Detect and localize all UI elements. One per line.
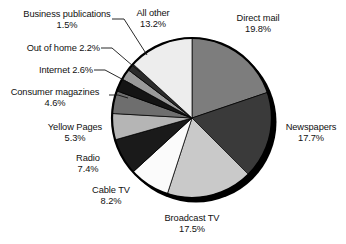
label-cable-tv: Cable TV 8.2% xyxy=(78,185,144,207)
label-yellow-pages: Yellow Pages 5.3% xyxy=(33,122,117,144)
label-internet: Internet 2.6% xyxy=(0,65,93,76)
label-direct-mail-name: Direct mail xyxy=(237,13,280,23)
label-consumer-magazines-value: 4.6% xyxy=(1,98,109,109)
label-broadcast-tv-name: Broadcast TV xyxy=(165,213,220,223)
label-newspapers: Newspapers 17.7% xyxy=(276,122,346,144)
label-cable-tv-name: Cable TV xyxy=(92,185,130,195)
label-internet-name: Internet 2.6% xyxy=(39,65,93,75)
label-yellow-pages-name: Yellow Pages xyxy=(48,122,102,132)
label-consumer-magazines: Consumer magazines 4.6% xyxy=(1,87,109,109)
label-business-publications-value: 1.5% xyxy=(4,20,130,31)
label-all-other-name: All other xyxy=(136,8,169,18)
label-broadcast-tv-value: 17.5% xyxy=(151,224,233,235)
label-radio-value: 7.4% xyxy=(56,164,120,175)
label-business-publications: Business publications 1.5% xyxy=(4,9,130,31)
label-all-other-value: 13.2% xyxy=(122,19,184,30)
label-radio-name: Radio xyxy=(76,153,100,163)
label-direct-mail: Direct mail 19.8% xyxy=(220,13,296,35)
label-out-of-home-name: Out of home 2.2% xyxy=(27,43,100,53)
label-broadcast-tv: Broadcast TV 17.5% xyxy=(151,213,233,235)
label-yellow-pages-value: 5.3% xyxy=(33,133,117,144)
label-cable-tv-value: 8.2% xyxy=(78,196,144,207)
label-newspapers-value: 17.7% xyxy=(276,133,346,144)
label-out-of-home: Out of home 2.2% xyxy=(0,43,100,54)
label-newspapers-name: Newspapers xyxy=(286,122,337,132)
label-business-publications-name: Business publications xyxy=(23,9,110,19)
label-all-other: All other 13.2% xyxy=(122,8,184,30)
pie-chart-figure: Business publications 1.5% Out of home 2… xyxy=(0,0,346,244)
label-direct-mail-value: 19.8% xyxy=(220,24,296,35)
label-consumer-magazines-name: Consumer magazines xyxy=(11,87,100,97)
label-radio: Radio 7.4% xyxy=(56,153,120,175)
